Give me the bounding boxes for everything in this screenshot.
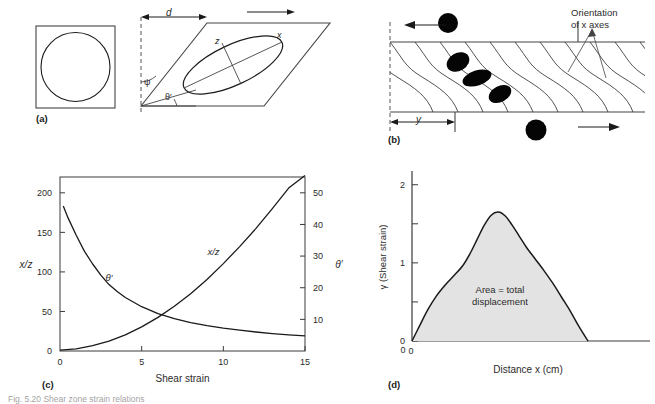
x-axis-label: Shear strain [156,373,210,384]
label-y: y [416,114,421,125]
y-axis-tick-label: 0 [47,346,52,356]
y-axis-tick-label: 1 [400,258,405,268]
y-axis-right-tick-label: 30 [313,251,323,261]
panel-tag-a: (a) [36,113,48,124]
theta-angle-arc [174,99,177,106]
panel-b-graphic [360,0,655,152]
origin-label: 0 [400,345,405,355]
y-axis-tick-label: 2 [400,180,405,190]
y-axis-right-label: θ′ [335,259,343,270]
area-fill [412,212,588,341]
label-psi: ψ [144,77,150,87]
d-arrow-left [141,14,149,20]
x-axis-tick-label: 15 [300,357,310,367]
series-curve-x/z [60,175,305,350]
undeformed-marker-circle [526,120,547,141]
y-axis-right-tick-label: 50 [313,188,323,198]
panel-c-chart: 0501001502001020304050051015θ′x/zShear s… [0,155,350,385]
x-axis-tick-label: 10 [218,357,228,367]
orientation-leader-line [592,30,606,78]
panel-tag-d: (d) [388,379,400,390]
y-axis-tick-label: 100 [37,267,52,277]
series-curve-θ′ [63,206,305,336]
y-axis-tick-label: 50 [42,307,52,317]
area-annotation-line1: Area = total [476,284,525,295]
plot-frame [60,177,305,351]
x-axis-tick-label: 5 [139,357,144,367]
deformed-marker-ellipse [460,66,493,90]
y-axis-label: x/z [19,259,33,270]
x-axis-tick-label: 0 [57,357,62,367]
ellipse-short-axis [222,43,241,84]
y-axis-right-tick-label: 10 [313,315,323,325]
figure-caption: Fig. 5.20 Shear zone strain relations [8,394,145,404]
panel-d-chart: 0120Area = totaldisplacement0Distance x … [360,155,655,385]
panel-a-graphic [0,0,350,150]
panel-tag-b: (b) [388,134,400,145]
panel-tag-c: (c) [42,379,54,390]
label-theta-prime: θ′ [165,92,172,102]
d-arrow-right [199,14,207,20]
panel-c: 0501001502001020304050051015θ′x/zShear s… [0,155,350,403]
y-axis-tick-label: 200 [37,188,52,198]
orientation-label-line2: of x axes [571,19,609,30]
series-label-θ′: θ′ [106,272,114,283]
undeformed-square [36,26,115,108]
orientation-label-line1: Orientation [571,7,617,18]
shear-sense-arrowhead [287,9,295,15]
shear-arrow-top-head [404,21,415,29]
ellipse-long-axis [184,42,282,88]
y-arrow-left [390,119,398,125]
series-label-x/z: x/z [206,246,219,257]
foliation-trajectories [365,42,655,112]
undeformed-circle [41,33,110,102]
label-d: d [166,7,172,18]
y-axis-right-tick-label: 20 [313,283,323,293]
x-axis-tick-label: 0 [408,346,413,356]
area-annotation-line2: displacement [472,296,528,307]
y-axis-right-tick-label: 40 [313,220,323,230]
y-arrow-right [447,119,455,125]
x-axis-label: Distance x (cm) [493,364,562,375]
y-axis-label: γ (Shear strain) [377,225,388,290]
undeformed-marker-circle [438,13,458,33]
label-ellipse-z-axis: z [215,36,220,46]
panel-d: 0120Area = totaldisplacement0Distance x … [360,155,655,403]
label-ellipse-x-axis: x [277,30,282,40]
y-axis-tick-label: 150 [37,228,52,238]
shear-arrow-bottom-head [609,123,620,131]
